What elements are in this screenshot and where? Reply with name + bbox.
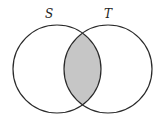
set-s-label: S	[45, 7, 53, 21]
venn-diagram: S T	[0, 0, 167, 120]
set-t-label: T	[104, 7, 113, 21]
